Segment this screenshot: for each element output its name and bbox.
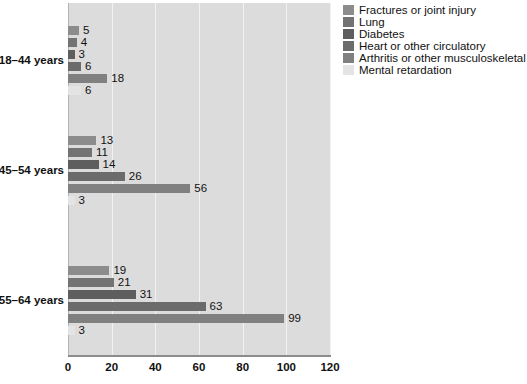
x-tick-label: 60: [184, 361, 214, 373]
bar: [68, 38, 77, 47]
bar: [68, 278, 114, 287]
bar-value-label: 6: [85, 83, 91, 97]
bar-value-label: 3: [79, 47, 85, 61]
bar-row: 14: [68, 160, 330, 169]
x-tick-label: 100: [271, 361, 301, 373]
legend-label: Mental retardation: [359, 64, 452, 76]
bar-value-label: 6: [85, 59, 91, 73]
x-tick-label: 80: [228, 361, 258, 373]
bar-row: 13: [68, 136, 330, 145]
legend-swatch-icon: [343, 53, 354, 63]
bar-row: 19: [68, 266, 330, 275]
legend-item[interactable]: Fractures or joint injury: [343, 4, 527, 16]
bar: [68, 184, 190, 193]
legend-label: Lung: [359, 16, 385, 28]
bar: [68, 326, 75, 335]
bar: [68, 50, 75, 59]
bar-row: 11: [68, 148, 330, 157]
legend-swatch-icon: [343, 17, 354, 27]
bar: [68, 136, 96, 145]
bar-value-label: 18: [111, 71, 124, 85]
bar-value-label: 99: [288, 311, 301, 325]
bar-value-label: 3: [79, 193, 85, 207]
legend-label: Fractures or joint injury: [359, 4, 476, 16]
bar: [68, 290, 136, 299]
bar-value-label: 56: [194, 181, 207, 195]
bar-row: 6: [68, 86, 330, 95]
x-axis-line: [68, 355, 331, 357]
bar-row: 21: [68, 278, 330, 287]
bar: [68, 74, 107, 83]
bar: [68, 196, 75, 205]
gridline: [330, 3, 331, 355]
bar-row: 99: [68, 314, 330, 323]
x-tick-label: 20: [97, 361, 127, 373]
x-tick-label: 120: [315, 361, 345, 373]
bar-value-label: 14: [103, 157, 116, 171]
legend-label: Heart or other circulatory: [359, 40, 486, 52]
category-label: 45–54 years: [0, 164, 64, 176]
bar-row: 56: [68, 184, 330, 193]
bar: [68, 148, 92, 157]
bar-row: 18: [68, 74, 330, 83]
x-tick-label: 0: [53, 361, 83, 373]
legend-item[interactable]: Diabetes: [343, 28, 527, 40]
category-label: 55–64 years: [0, 294, 64, 306]
bar: [68, 314, 284, 323]
bar-row: 26: [68, 172, 330, 181]
bar: [68, 302, 206, 311]
bar-row: 5: [68, 26, 330, 35]
legend-item[interactable]: Mental retardation: [343, 64, 527, 76]
bar: [68, 62, 81, 71]
bar-value-label: 26: [129, 169, 142, 183]
x-tick-label: 40: [140, 361, 170, 373]
legend: Fractures or joint injuryLungDiabetesHea…: [343, 4, 527, 76]
bar-row: 3: [68, 50, 330, 59]
bar: [68, 26, 79, 35]
legend-label: Arthritis or other musculoskeletal: [359, 52, 526, 64]
bar-row: 63: [68, 302, 330, 311]
legend-swatch-icon: [343, 41, 354, 51]
bar-value-label: 31: [140, 287, 153, 301]
bar-row: 3: [68, 326, 330, 335]
bar: [68, 172, 125, 181]
bar: [68, 160, 99, 169]
legend-swatch-icon: [343, 65, 354, 75]
bar-row: 31: [68, 290, 330, 299]
bar-value-label: 21: [118, 275, 131, 289]
bar-row: 3: [68, 196, 330, 205]
bar-value-label: 3: [79, 323, 85, 337]
legend-item[interactable]: Arthritis or other musculoskeletal: [343, 52, 527, 64]
bar-row: 6: [68, 62, 330, 71]
legend-item[interactable]: Heart or other circulatory: [343, 40, 527, 52]
legend-label: Diabetes: [359, 28, 404, 40]
legend-swatch-icon: [343, 5, 354, 15]
bar: [68, 266, 109, 275]
legend-swatch-icon: [343, 29, 354, 39]
bar-row: 4: [68, 38, 330, 47]
bar-value-label: 63: [210, 299, 223, 313]
category-label: 18–44 years: [0, 54, 64, 66]
legend-item[interactable]: Lung: [343, 16, 527, 28]
bar: [68, 86, 81, 95]
